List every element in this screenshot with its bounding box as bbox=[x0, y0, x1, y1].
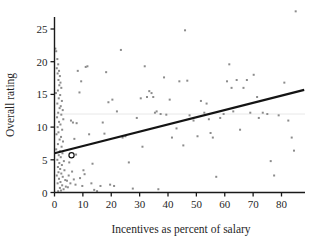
scatter-point bbox=[68, 161, 70, 163]
scatter-point bbox=[57, 126, 59, 128]
scatter-point bbox=[226, 80, 228, 82]
scatter-point bbox=[58, 154, 60, 156]
scatter-point bbox=[232, 110, 234, 112]
scatter-point bbox=[136, 117, 138, 119]
scatter-point bbox=[103, 133, 105, 135]
scatter-point bbox=[58, 121, 60, 123]
scatter-point bbox=[63, 169, 65, 171]
scatter-point bbox=[63, 188, 65, 190]
scatter-point bbox=[148, 90, 150, 92]
plot-background bbox=[0, 0, 315, 239]
scatter-point bbox=[165, 114, 167, 116]
scatter-point bbox=[231, 87, 233, 89]
scatter-point bbox=[62, 109, 64, 111]
scatter-point bbox=[236, 79, 238, 81]
scatter-point bbox=[291, 137, 293, 139]
scatter-point bbox=[99, 185, 101, 187]
scatter-point bbox=[57, 131, 59, 133]
scatter-point bbox=[293, 150, 295, 152]
scatter-point bbox=[67, 186, 69, 188]
scatter-point bbox=[287, 120, 289, 122]
scatter-point bbox=[55, 148, 57, 150]
scatter-point bbox=[57, 112, 59, 114]
scatter-point bbox=[60, 190, 62, 192]
scatter-point bbox=[56, 175, 58, 177]
scatter-point bbox=[57, 72, 59, 74]
scatter-point bbox=[58, 84, 60, 86]
scatter-point bbox=[62, 176, 64, 178]
scatter-point bbox=[75, 184, 77, 186]
scatter-point bbox=[57, 89, 59, 91]
scatter-point bbox=[73, 178, 75, 180]
scatter-point bbox=[273, 175, 275, 177]
scatter-point bbox=[59, 168, 61, 170]
scatter-point bbox=[228, 63, 230, 65]
scatter-point bbox=[77, 70, 79, 72]
scatter-point bbox=[61, 100, 63, 102]
y-axis-tick-label: 5 bbox=[42, 154, 48, 166]
scatter-point bbox=[163, 76, 165, 78]
scatter-point bbox=[178, 80, 180, 82]
scatter-point bbox=[210, 132, 212, 134]
scatter-plot-figure: 01020304050607080 0510152025 Incentives … bbox=[0, 0, 315, 239]
scatter-point bbox=[60, 136, 62, 138]
scatter-point bbox=[266, 113, 268, 115]
scatter-point bbox=[68, 175, 70, 177]
scatter-point bbox=[184, 29, 186, 31]
scatter-point bbox=[57, 143, 59, 145]
scatter-point bbox=[56, 116, 58, 118]
x-axis-tick-label: 40 bbox=[163, 198, 175, 210]
scatter-point bbox=[72, 122, 74, 124]
scatter-point bbox=[295, 10, 297, 12]
scatter-point bbox=[71, 171, 73, 173]
scatter-point bbox=[60, 156, 62, 158]
scatter-point bbox=[120, 49, 122, 51]
highlighted-data-point bbox=[69, 153, 74, 158]
scatter-point bbox=[56, 67, 58, 69]
scatter-point bbox=[141, 146, 143, 148]
scatter-point bbox=[109, 184, 111, 186]
scatter-point bbox=[93, 189, 95, 191]
x-axis-tick-label: 50 bbox=[191, 198, 203, 210]
scatter-point bbox=[90, 182, 92, 184]
highlight-circle-marker bbox=[69, 153, 74, 158]
scatter-point bbox=[169, 99, 171, 101]
scatter-point bbox=[57, 63, 59, 65]
scatter-point bbox=[61, 129, 63, 131]
scatter-point bbox=[76, 122, 78, 124]
scatter-point bbox=[59, 107, 61, 109]
x-axis-tick-label: 60 bbox=[219, 198, 231, 210]
scatter-point bbox=[61, 146, 63, 148]
scatter-point bbox=[80, 80, 82, 82]
scatter-point bbox=[57, 166, 59, 168]
scatter-point bbox=[59, 75, 61, 77]
scatter-point bbox=[253, 74, 255, 76]
scatter-point bbox=[55, 133, 57, 135]
scatter-point bbox=[60, 105, 62, 107]
scatter-point bbox=[57, 79, 59, 81]
scatter-point bbox=[84, 173, 86, 175]
x-axis-tick-label: 10 bbox=[77, 198, 89, 210]
scatter-point bbox=[262, 112, 264, 114]
scatter-point bbox=[61, 164, 63, 166]
scatter-point bbox=[116, 110, 118, 112]
scatter-point bbox=[64, 179, 66, 181]
scatter-point bbox=[102, 122, 104, 124]
scatter-point bbox=[60, 173, 62, 175]
scatter-point bbox=[186, 80, 188, 82]
scatter-point bbox=[61, 184, 63, 186]
scatter-point bbox=[62, 140, 64, 142]
scatter-point bbox=[160, 113, 162, 115]
y-axis-tick-label: 10 bbox=[37, 121, 49, 133]
scatter-point bbox=[151, 92, 153, 94]
scatter-point bbox=[258, 117, 260, 119]
x-axis-title: Incentives as percent of salary bbox=[111, 223, 250, 236]
scatter-point bbox=[73, 138, 75, 140]
scatter-point bbox=[59, 139, 61, 141]
y-axis-tick-label: 15 bbox=[37, 88, 49, 100]
scatter-point bbox=[85, 66, 87, 68]
scatter-point bbox=[59, 187, 61, 189]
scatter-point bbox=[56, 159, 58, 161]
scatter-point bbox=[55, 92, 57, 94]
scatter-point bbox=[75, 154, 77, 156]
